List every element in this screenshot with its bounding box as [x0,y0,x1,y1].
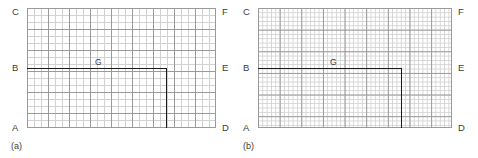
path-segment-horizontal-a [27,68,166,69]
vertex-label-d-b: D [458,123,465,133]
path-segment-vertical-b [401,68,402,128]
vertex-label-f-a: F [222,7,228,17]
vertex-label-b-b: B [243,63,249,73]
vertex-label-a-a: A [12,123,18,133]
vertex-label-f-b: F [458,7,464,17]
path-segment-horizontal-b [258,68,401,69]
panel-a: C F B E A D G (a) [0,0,239,158]
interior-label-g-a: G [95,58,102,67]
vertex-label-e-b: E [458,63,464,73]
vertex-label-c-a: C [12,7,19,17]
panel-b: C F B E A D G (b) [239,0,478,158]
path-segment-vertical-a [166,68,167,128]
vertex-label-c-b: C [243,7,250,17]
vertex-label-b-a: B [12,63,18,73]
panel-caption-b: (b) [243,141,254,151]
vertex-label-a-b: A [243,123,249,133]
vertex-label-d-a: D [222,123,229,133]
interior-label-g-b: G [330,58,337,67]
figure-root: C F B E A D G (a) C F B E A D G (b) [0,0,478,158]
panel-caption-a: (a) [11,141,22,151]
vertex-label-e-a: E [222,63,228,73]
